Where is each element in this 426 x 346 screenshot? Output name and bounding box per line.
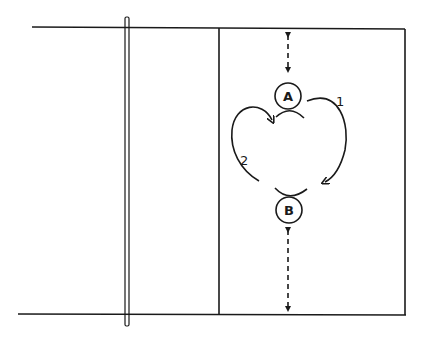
court-bottom-line bbox=[18, 314, 406, 315]
path-1-arrow bbox=[307, 98, 346, 182]
net-post bbox=[125, 17, 129, 326]
arc-above-b bbox=[275, 188, 307, 196]
player-b-label: B bbox=[284, 203, 294, 218]
player-a-label: A bbox=[283, 89, 293, 104]
player-b: B bbox=[276, 197, 302, 223]
volleyball-drill-diagram: A B 1 2 bbox=[0, 0, 426, 346]
path-2-label: 2 bbox=[240, 153, 248, 168]
path-2-arrow bbox=[232, 107, 272, 181]
path-1-label: 1 bbox=[336, 94, 344, 109]
arc-below-a bbox=[276, 111, 304, 118]
player-a: A bbox=[275, 83, 301, 109]
court bbox=[18, 27, 406, 315]
